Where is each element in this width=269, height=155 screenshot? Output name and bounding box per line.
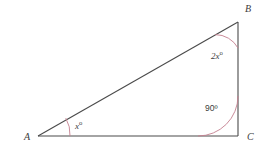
angle-label-b: 2xo — [211, 50, 223, 61]
angle-c-degree-symbol: º — [214, 103, 217, 113]
angle-arc-b — [215, 35, 238, 48]
angle-label-c: 90º — [205, 104, 218, 113]
angle-label-a: xo — [75, 120, 82, 131]
triangle-figure — [0, 0, 269, 155]
vertex-label-a: A — [24, 132, 30, 142]
vertex-label-b: B — [245, 4, 251, 14]
angle-b-value: 2x — [211, 51, 220, 61]
side-ab — [38, 22, 238, 136]
diagram-canvas: A B C xo 2xo 90º — [0, 0, 269, 155]
angle-arc-a — [66, 118, 70, 136]
angle-a-degree-symbol: o — [79, 120, 82, 126]
angle-b-degree-symbol: o — [220, 50, 223, 56]
vertex-label-c: C — [247, 132, 254, 142]
angle-arc-c — [198, 96, 238, 136]
